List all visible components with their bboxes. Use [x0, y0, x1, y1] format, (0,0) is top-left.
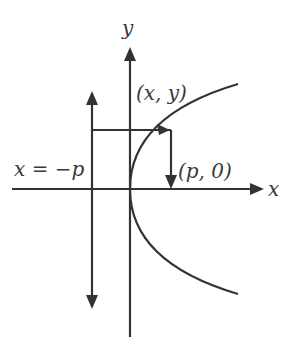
- directrix-down-arrowhead: [86, 295, 98, 309]
- x-axis-arrowhead: [250, 183, 264, 195]
- parabola-diagram: y x (x, y) (p, 0) x = −p: [0, 0, 300, 353]
- x-axis-label: x: [268, 177, 279, 201]
- y-axis-arrowhead: [124, 47, 136, 61]
- y-axis-label: y: [121, 16, 134, 40]
- directrix-up-arrowhead: [86, 91, 98, 105]
- focus-arrowhead: [165, 175, 177, 189]
- point-arrowhead: [157, 124, 170, 135]
- directrix-label: x = −p: [14, 157, 85, 181]
- focus-label: (p, 0): [178, 159, 232, 183]
- point-label: (x, y): [136, 81, 187, 105]
